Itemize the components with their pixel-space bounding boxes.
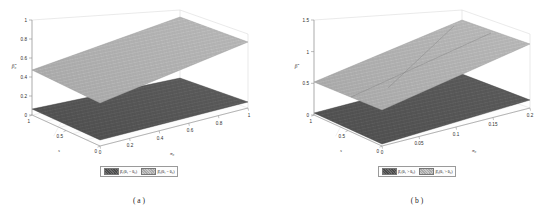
legend-label-b-2: β̂₂(θ₁ > θ₀) <box>436 169 453 174</box>
y-tick-a-2: 0.4 <box>157 136 164 141</box>
z-tick-a-0: 0 <box>24 113 27 118</box>
y-tick-b-1: 0.05 <box>415 141 424 146</box>
z-tick-a-3: 0.6 <box>21 56 28 61</box>
x-axis-label-b: s <box>340 148 342 153</box>
x-tick-b-2: 0 <box>376 149 379 154</box>
legend-item-a-2[interactable]: β̂₂(θ₁ = θ₀) <box>141 168 174 175</box>
x-tick-b-0: 1 <box>309 119 312 124</box>
legend-swatch-light-icon <box>419 168 434 175</box>
legend-swatch-dark-icon <box>382 168 397 175</box>
y-tick-b-4: 0.2 <box>527 113 534 118</box>
legend-label-a-1: β̂₁(θ₁ = θ₀) <box>120 169 137 174</box>
panel-b: 0 0.5 1 1.5 β̂ 1 0.5 0 s <box>278 0 556 223</box>
z-tick-b-2: 1 <box>306 50 309 55</box>
x-axis-label-a: s <box>58 148 60 153</box>
y-axis-label-b: π₀ <box>472 148 477 153</box>
plot-area-b: 0 0.5 1 1.5 β̂ 1 0.5 0 s <box>278 0 556 190</box>
z-tick-a-4: 0.8 <box>21 37 28 42</box>
x-tick-b-1: 0.5 <box>339 134 346 139</box>
z-axis-b: 0 0.5 1 1.5 β̂ <box>294 18 314 118</box>
legend-item-a-1[interactable]: β̂₁(θ₁ = θ₀) <box>104 168 137 175</box>
panel-a: 0 0.2 0.4 0.6 0.8 1 β̂₀ 1 0.5 0 <box>0 0 278 223</box>
legend-item-b-2[interactable]: β̂₂(θ₁ > θ₀) <box>419 168 452 175</box>
y-tick-b-0: 0 <box>381 150 384 155</box>
x-tick-a-0: 1 <box>27 119 30 124</box>
z-axis-label-a: β̂₀ <box>11 63 17 69</box>
legend-a: β̂₁(θ₁ = θ₀) β̂₂(θ₁ = θ₀) <box>0 166 278 177</box>
legend-label-b-1: β̂₁(θ₁ > θ₀) <box>398 169 415 174</box>
surface-plot-b: 0 0.5 1 1.5 β̂ 1 0.5 0 s <box>278 0 556 190</box>
z-tick-b-0: 0 <box>306 113 309 118</box>
surface-plot-a: 0 0.2 0.4 0.6 0.8 1 β̂₀ 1 0.5 0 <box>0 0 278 190</box>
x-tick-a-1: 0.5 <box>57 134 64 139</box>
y-tick-a-3: 0.6 <box>187 128 194 133</box>
z-tick-a-1: 0.2 <box>21 94 28 99</box>
z-tick-a-2: 0.4 <box>21 75 28 80</box>
z-tick-b-3: 1.5 <box>303 18 310 23</box>
plot-area-a: 0 0.2 0.4 0.6 0.8 1 β̂₀ 1 0.5 0 <box>0 0 278 190</box>
z-axis-a: 0 0.2 0.4 0.6 0.8 1 β̂₀ <box>11 18 32 118</box>
panel-caption-a: ( a ) <box>0 196 278 205</box>
legend-swatch-dark-icon <box>104 168 119 175</box>
y-tick-a-4: 0.8 <box>216 121 223 126</box>
legend-label-a-2: β̂₂(θ₁ = θ₀) <box>158 169 175 174</box>
y-tick-b-2: 0.1 <box>453 132 460 137</box>
legend-swatch-light-icon <box>141 168 156 175</box>
x-tick-a-2: 0 <box>94 149 97 154</box>
z-tick-b-1: 0.5 <box>303 81 310 86</box>
panel-caption-b: ( b ) <box>278 196 556 205</box>
figure-root: 0 0.2 0.4 0.6 0.8 1 β̂₀ 1 0.5 0 <box>0 0 556 223</box>
z-tick-a-5: 1 <box>24 18 27 23</box>
y-tick-b-3: 0.15 <box>489 122 498 127</box>
y-axis-label-a: π₀ <box>170 151 175 156</box>
legend-b: β̂₁(θ₁ > θ₀) β̂₂(θ₁ > θ₀) <box>278 166 556 177</box>
y-tick-a-0: 0 <box>99 150 102 155</box>
y-tick-a-1: 0.2 <box>127 143 134 148</box>
z-axis-label-b: β̂ <box>294 63 300 69</box>
y-tick-a-5: 1 <box>248 113 251 118</box>
legend-item-b-1[interactable]: β̂₁(θ₁ > θ₀) <box>382 168 415 175</box>
